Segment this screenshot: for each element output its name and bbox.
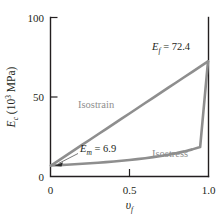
- y-tick-label-50: 50: [33, 91, 45, 103]
- em-annotation: Em = 6.9: [79, 143, 116, 157]
- modulus-plot: 100 50 0 0 0.5 1.0 υf Ec (103 MPa) Ef = …: [0, 0, 223, 218]
- em-equals: = 6.9: [92, 143, 116, 154]
- y-axis-title-unit-open: (10: [5, 99, 18, 117]
- x-tick-label-10: 1.0: [202, 184, 216, 196]
- x-axis-title-sub: f: [131, 205, 134, 214]
- y-axis-title: Ec (103 MPa): [4, 66, 20, 128]
- x-tick-label-05: 0.5: [123, 184, 137, 196]
- ef-annotation: Ef = 72.4: [151, 41, 191, 55]
- x-axis-title: υf: [126, 199, 134, 214]
- x-tick-label-0: 0: [48, 184, 54, 196]
- y-axis-title-unit-close: MPa): [5, 66, 18, 95]
- y-tick-label-100: 100: [28, 12, 45, 24]
- y-axis-title-main: E: [5, 120, 17, 128]
- ef-equals: = 72.4: [161, 41, 191, 52]
- y-tick-label-0: 0: [39, 171, 45, 183]
- isostress-label: Isostress: [152, 148, 188, 159]
- y-tick-marks: [51, 18, 58, 98]
- isostrain-label: Isostrain: [78, 99, 115, 110]
- figure-container: 100 50 0 0 0.5 1.0 υf Ec (103 MPa) Ef = …: [0, 0, 223, 218]
